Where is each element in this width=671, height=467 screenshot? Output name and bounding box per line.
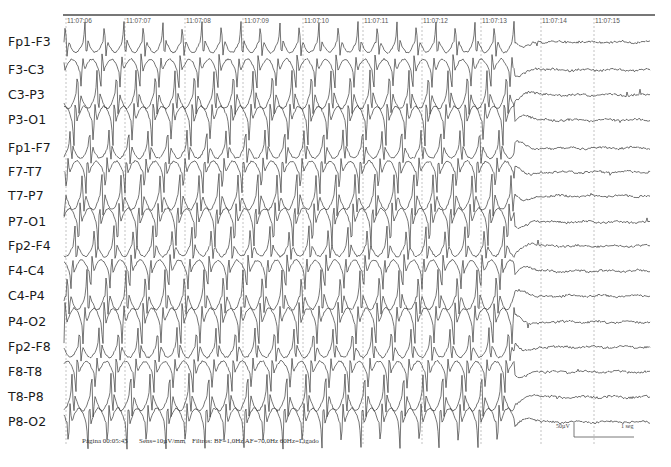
timestamp-label: 11:07:06 bbox=[67, 17, 92, 24]
timestamp-label: 11:07:07 bbox=[126, 17, 151, 24]
eeg-channel-trace bbox=[64, 302, 650, 345]
channel-label: P8-O2 bbox=[8, 415, 46, 429]
channel-label: F4-C4 bbox=[8, 264, 44, 278]
eeg-trace-plot bbox=[0, 0, 671, 467]
eeg-channel-trace bbox=[64, 358, 650, 393]
channel-label: T8-P8 bbox=[8, 390, 44, 404]
eeg-channel-trace bbox=[64, 158, 650, 194]
channel-label: F7-T7 bbox=[8, 165, 42, 179]
channel-label: Fp2-F8 bbox=[8, 340, 51, 354]
timestamp-label: 11:07:09 bbox=[244, 17, 269, 24]
eeg-channel-trace bbox=[64, 130, 650, 164]
eeg-channel-trace bbox=[64, 373, 650, 417]
channel-label: P4-O2 bbox=[8, 315, 46, 329]
eeg-channel-trace bbox=[64, 327, 650, 362]
channel-label: Fp1-F7 bbox=[8, 141, 51, 155]
eeg-channel-trace bbox=[64, 21, 650, 56]
filters-label: Filtros: BF=1,0Hz AF=70,0Hz 60Hz=Ligado bbox=[192, 437, 319, 445]
eeg-channel-trace bbox=[64, 226, 650, 260]
timestamp-label: 11:07:11 bbox=[364, 17, 388, 24]
page-indicator: Página 00:05:45 bbox=[82, 437, 128, 445]
channel-labels: Fp1-F3F3-C3C3-P3P3-O1Fp1-F7F7-T7T7-P7P7-… bbox=[0, 0, 62, 467]
eeg-channel-trace bbox=[64, 103, 650, 147]
timestamp-label: 11:07:12 bbox=[423, 17, 448, 24]
channel-label: P3-O1 bbox=[8, 113, 46, 127]
sensitivity-label: Sens=10µV/mm bbox=[139, 437, 185, 445]
timestamp-label: 11:07:14 bbox=[542, 17, 567, 24]
timestamp-label: 11:07:10 bbox=[304, 17, 329, 24]
eeg-channel-trace bbox=[64, 70, 650, 115]
channel-label: T7-P7 bbox=[8, 189, 44, 203]
channel-label: Fp1-F3 bbox=[8, 35, 51, 49]
channel-label: C4-P4 bbox=[8, 289, 45, 303]
scale-time: 1 seg bbox=[621, 423, 634, 429]
channel-label: F3-C3 bbox=[8, 63, 44, 77]
channel-label: C3-P3 bbox=[8, 88, 45, 102]
channel-label: F8-T8 bbox=[8, 365, 42, 379]
eeg-channel-trace bbox=[64, 174, 650, 216]
eeg-traces bbox=[64, 21, 650, 449]
eeg-channel-trace bbox=[64, 254, 650, 290]
channel-label: Fp2-F4 bbox=[8, 239, 51, 253]
scale-amplitude: 50µV bbox=[556, 423, 570, 429]
timestamp-label: 11:07:13 bbox=[482, 17, 507, 24]
channel-label: P7-O1 bbox=[8, 215, 46, 229]
eeg-channel-trace bbox=[64, 54, 650, 88]
timestamp-label: 11:07:15 bbox=[595, 17, 620, 24]
timestamp-label: 11:07:08 bbox=[186, 17, 211, 24]
